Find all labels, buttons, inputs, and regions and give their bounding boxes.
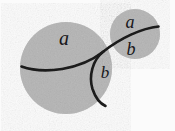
figure-container: abab (0, 0, 175, 131)
label-b-small-disk: b (127, 39, 136, 59)
label-a-large-disk: a (59, 27, 69, 49)
diagram-canvas: abab (0, 0, 175, 131)
label-a-small-disk: a (126, 12, 135, 32)
label-b-large-disk: b (101, 63, 110, 82)
